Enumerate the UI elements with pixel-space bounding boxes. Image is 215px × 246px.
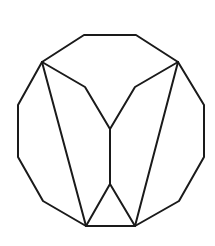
inner-segments [42, 62, 178, 226]
dodecagon-dissection-diagram [0, 0, 215, 246]
upper-w-path-segment [42, 62, 178, 129]
right-diagonal-segment [135, 62, 178, 226]
bottom-triangle-left-segment [86, 184, 110, 226]
left-diagonal-segment [42, 62, 86, 226]
bottom-triangle-right-segment [110, 184, 135, 226]
